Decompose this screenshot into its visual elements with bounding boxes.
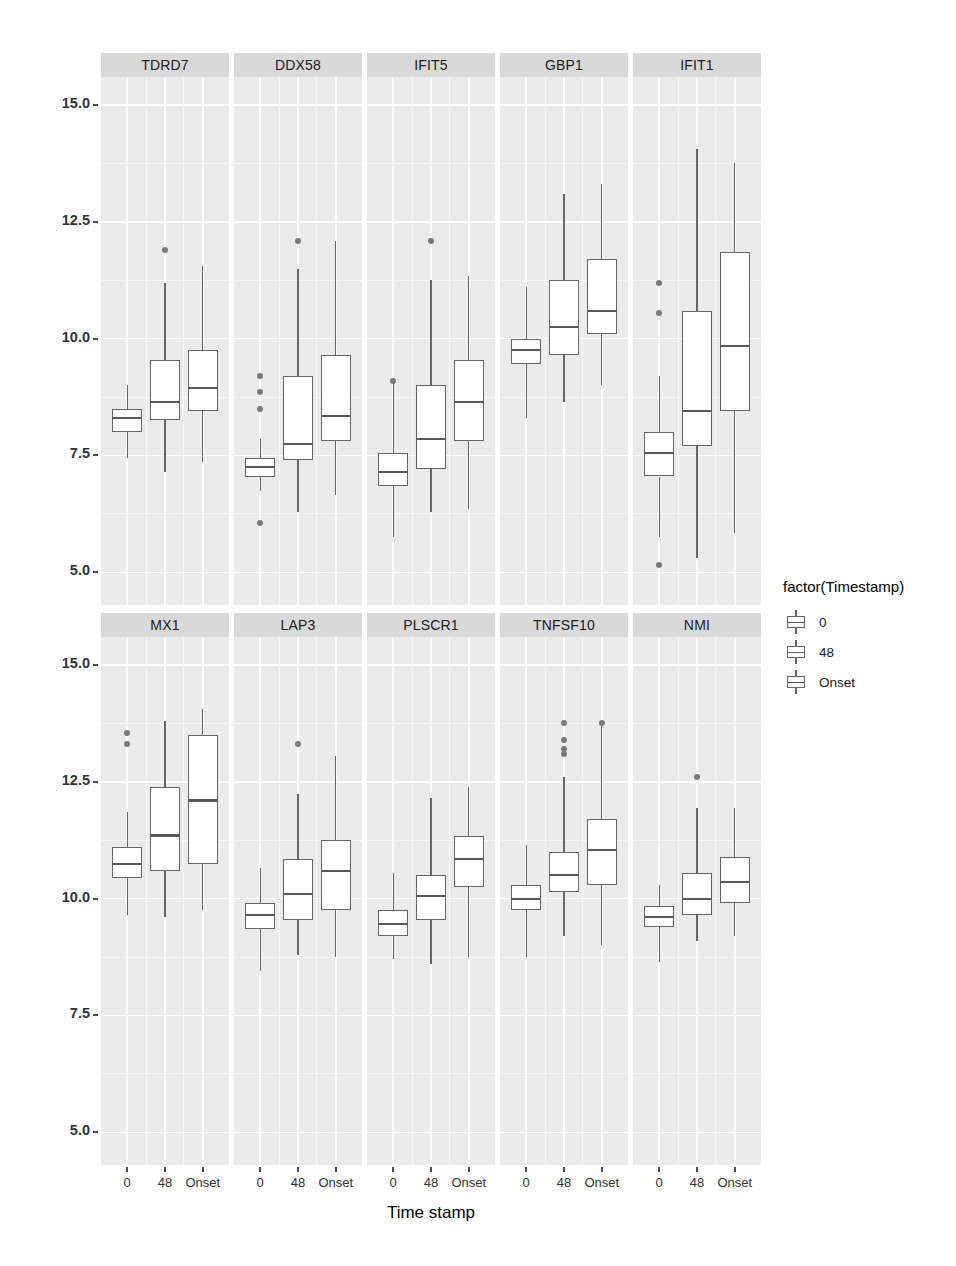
panel-tnfsf10 [500, 637, 628, 1165]
box-whisker-upper [659, 376, 660, 432]
x-axis-tick-mark [202, 1167, 204, 1172]
box-whisker-upper [563, 777, 564, 852]
x-axis-tick-mark [525, 1167, 527, 1172]
box-outlier-point [599, 720, 605, 726]
gridline-vertical-minor [146, 77, 147, 605]
box-body [321, 840, 351, 910]
gridline-vertical-minor [183, 637, 184, 1165]
x-axis-tick-mark [164, 1167, 166, 1172]
gridline-vertical-minor [545, 637, 546, 1165]
box-median-line [283, 443, 313, 445]
facet-strip-ifit5: IFIT5 [367, 53, 495, 77]
box-median-line [321, 870, 351, 872]
box-whisker-lower [393, 486, 394, 537]
box-median-line [188, 387, 218, 389]
gridline-vertical-minor [316, 637, 317, 1165]
box-body [416, 385, 446, 469]
y-axis-tick-mark [93, 338, 98, 340]
y-axis-tick-mark [93, 1131, 98, 1133]
box-body [682, 873, 712, 915]
facet-strip-mx1: MX1 [101, 613, 229, 637]
facet-label: TDRD7 [141, 57, 189, 73]
box-whisker-upper [127, 385, 128, 408]
y-axis-tick-mark [93, 221, 98, 223]
box-body [549, 852, 579, 892]
x-axis-tick-mark [658, 1167, 660, 1172]
legend-item-onset[interactable]: Onset [783, 667, 904, 697]
box-whisker-lower [526, 364, 527, 418]
box-body [454, 836, 484, 887]
box-outlier-point [295, 238, 301, 244]
y-axis-tick-mark [93, 454, 98, 456]
box-whisker-upper [202, 709, 203, 735]
box-median-line [644, 452, 674, 454]
box-whisker-lower [734, 411, 735, 532]
legend-item-0[interactable]: 0 [783, 607, 904, 637]
legend-title: factor(Timestamp) [783, 578, 904, 595]
box-whisker-upper [335, 241, 336, 355]
box-whisker-upper [468, 276, 469, 360]
box-whisker-lower [526, 910, 527, 957]
box-body [644, 432, 674, 476]
facet-strip-tnfsf10: TNFSF10 [500, 613, 628, 637]
box-median-line [511, 898, 541, 900]
box-body [321, 355, 351, 441]
box-outlier-point [162, 247, 168, 253]
x-axis-title: Time stamp [101, 1203, 761, 1223]
box-whisker-lower [601, 334, 602, 385]
box-whisker-upper [468, 787, 469, 836]
box-whisker-upper [734, 163, 735, 252]
box-median-line [454, 401, 484, 403]
box-whisker-upper [297, 269, 298, 376]
boxplot-figure: Log2 Normalized Expression Values 5.07.5… [0, 0, 956, 1266]
facet-label: GBP1 [545, 57, 583, 73]
box-median-line [150, 834, 180, 836]
panel-ddx58 [234, 77, 362, 605]
box-outlier-point [694, 774, 700, 780]
box-whisker-upper [601, 723, 602, 819]
box-median-line [587, 310, 617, 312]
box-median-line [644, 916, 674, 918]
gridline-vertical-minor [582, 77, 583, 605]
box-median-line [549, 326, 579, 328]
panel-tdrd7 [101, 77, 229, 605]
legend-item-48[interactable]: 48 [783, 637, 904, 667]
y-axis-title: Log2 Normalized Expression Values [12, 0, 46, 34]
box-outlier-point [257, 520, 263, 526]
facet-label: IFIT5 [414, 57, 448, 73]
box-body [378, 453, 408, 486]
x-axis-tick-label: Onset [185, 1175, 220, 1190]
box-whisker-lower [127, 878, 128, 915]
facet-label: DDX58 [275, 57, 321, 73]
y-axis-tick-label: 15.0 [35, 95, 90, 111]
x-axis-tick-mark [601, 1167, 603, 1172]
box-outlier-point [561, 720, 567, 726]
box-outlier-point [124, 741, 130, 747]
box-whisker-upper [260, 868, 261, 903]
box-outlier-point [656, 562, 662, 568]
x-axis-tick-label: 0 [656, 1175, 663, 1190]
box-body [112, 409, 142, 432]
box-body [150, 360, 180, 421]
box-outlier-point [257, 389, 263, 395]
box-median-line [321, 415, 351, 417]
gridline-vertical-minor [582, 637, 583, 1165]
box-whisker-lower [335, 910, 336, 957]
gridline-vertical-minor [715, 637, 716, 1165]
facet-strip-tdrd7: TDRD7 [101, 53, 229, 77]
box-whisker-lower [202, 864, 203, 911]
facet-label: PLSCR1 [403, 617, 459, 633]
box-median-line [587, 849, 617, 851]
facet-label: MX1 [150, 617, 179, 633]
box-whisker-upper [659, 885, 660, 906]
x-axis-tick-label: 48 [158, 1175, 172, 1190]
y-axis-tick-mark [93, 781, 98, 783]
box-whisker-upper [734, 808, 735, 857]
box-outlier-point [656, 280, 662, 286]
panel-nmi [633, 637, 761, 1165]
box-whisker-lower [335, 441, 336, 495]
facet-label: LAP3 [280, 617, 315, 633]
box-whisker-lower [468, 887, 469, 957]
box-whisker-lower [601, 885, 602, 946]
box-median-line [511, 349, 541, 351]
